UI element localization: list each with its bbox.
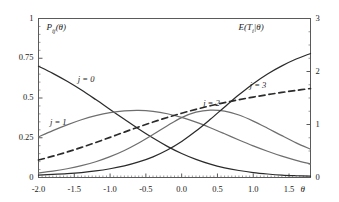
- curve-label-curve_j1: j = 1: [50, 117, 67, 127]
- axis-ticks: [39, 19, 311, 178]
- plot-frame: [39, 19, 311, 178]
- x-tick-label: 0.5: [199, 184, 235, 194]
- curve-series-2: [39, 110, 311, 173]
- x-tick-label: -1.0: [92, 184, 128, 194]
- y-axis-right-title: E(Ti|θ): [239, 22, 264, 34]
- curve-series-4: [39, 89, 311, 160]
- x-tick-label: 1.0: [235, 184, 271, 194]
- y-left-tick-label: 0.75: [19, 52, 34, 62]
- x-axis-title: θ: [301, 184, 305, 194]
- x-tick-label: -1.5: [56, 184, 92, 194]
- y-left-tick-label: 0: [29, 172, 33, 182]
- y-left-tick-label: 0.25: [19, 132, 34, 142]
- plot-border: [39, 19, 311, 178]
- curve-series-1: [39, 110, 311, 163]
- x-tick-label: -2.0: [21, 184, 57, 194]
- curve-label-curve_j2: j = 2: [203, 98, 220, 108]
- y-right-tick-label: 3: [316, 13, 320, 23]
- x-tick-label: 0.0: [164, 184, 200, 194]
- x-tick-label: -0.5: [128, 184, 164, 194]
- data-curves: [39, 53, 311, 176]
- curve-label-curve_j0: j = 0: [78, 74, 95, 84]
- y-left-tick-label: 0.5: [23, 92, 34, 102]
- y-right-tick-label: 0: [316, 172, 320, 182]
- curve-label-curve_j3: j = 3: [250, 80, 267, 90]
- y-right-tick-label: 2: [316, 66, 320, 76]
- y-left-tick-label: 1: [29, 13, 33, 23]
- curve-series-3: [39, 53, 311, 175]
- y-axis-left-title: Pij(θ): [47, 22, 67, 34]
- chart-figure: 00.250.50.751 0123 -2.0-1.5-1.0-0.50.00.…: [0, 0, 339, 202]
- y-right-tick-label: 1: [316, 119, 320, 129]
